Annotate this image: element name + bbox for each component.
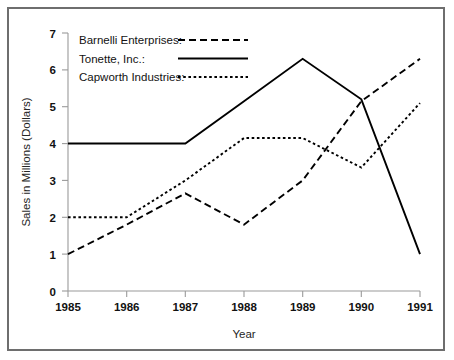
y-tick-labels: 0 1 2 3 4 5 6 7 xyxy=(50,28,57,298)
y-tick-label: 6 xyxy=(50,64,56,76)
y-tick-label: 1 xyxy=(50,249,57,261)
y-tick-label: 2 xyxy=(50,212,56,224)
line-chart: 0 1 2 3 4 5 6 7 1985 1986 1987 1988 1989… xyxy=(0,0,454,360)
x-tick-label: 1988 xyxy=(231,301,257,313)
legend-label-barnelli: Barnelli Enterprises: xyxy=(79,34,182,46)
legend-label-capworth: Capworth Industries: xyxy=(79,71,184,83)
y-axis-title: Sales in Millions (Dollars) xyxy=(20,97,32,226)
x-tick-marks xyxy=(68,291,420,297)
x-axis-title: Year xyxy=(232,328,255,340)
x-tick-label: 1985 xyxy=(55,301,81,313)
series-group xyxy=(68,59,420,254)
x-tick-label: 1986 xyxy=(114,301,140,313)
series-line-barnelli xyxy=(68,59,420,254)
y-tick-marks xyxy=(62,33,68,291)
x-tick-labels: 1985 1986 1987 1988 1989 1990 1991 xyxy=(55,301,433,313)
x-tick-label: 1989 xyxy=(290,301,316,313)
x-tick-label: 1987 xyxy=(173,301,199,313)
legend-label-tonette: Tonette, Inc.: xyxy=(79,53,145,65)
x-tick-label: 1990 xyxy=(349,301,375,313)
y-tick-label: 4 xyxy=(50,138,57,150)
chart-svg: 0 1 2 3 4 5 6 7 1985 1986 1987 1988 1989… xyxy=(0,0,454,360)
x-tick-label: 1991 xyxy=(407,301,433,313)
y-tick-label: 7 xyxy=(50,28,56,40)
y-tick-label: 5 xyxy=(50,101,57,113)
y-tick-label: 0 xyxy=(50,286,56,298)
y-tick-label: 3 xyxy=(50,175,56,187)
series-line-capworth xyxy=(68,103,420,217)
legend: Barnelli Enterprises: Tonette, Inc.: Cap… xyxy=(79,34,248,83)
